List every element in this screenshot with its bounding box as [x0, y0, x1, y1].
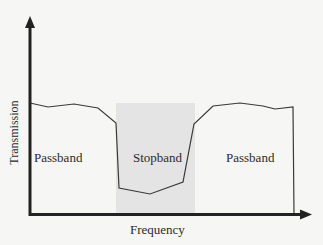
passband-right-label: Passband: [226, 150, 274, 166]
x-axis-arrow-icon: [300, 210, 312, 220]
x-axis-label: Frequency: [130, 222, 185, 238]
stopband-label: Stopband: [133, 150, 182, 166]
y-axis-arrow-icon: [25, 16, 35, 28]
passband-left-label: Passband: [34, 150, 82, 166]
y-axis-label: Transmission: [7, 83, 22, 183]
filter-response-diagram: [0, 0, 323, 245]
